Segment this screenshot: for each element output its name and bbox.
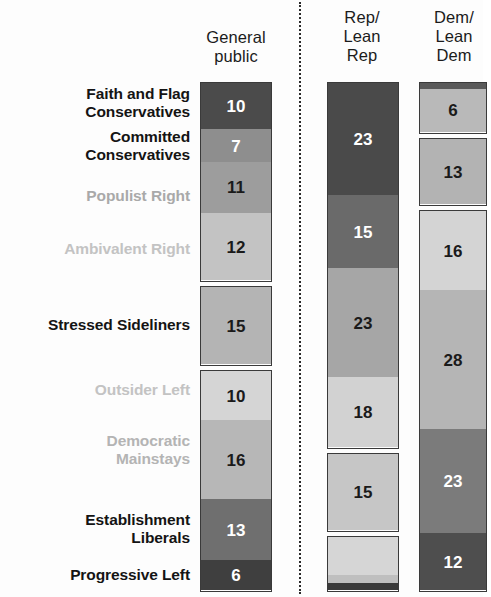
segment-value-label: 16 bbox=[420, 243, 486, 260]
segment-value-label: 13 bbox=[420, 164, 486, 181]
row-label: Committed Conservatives bbox=[85, 128, 190, 163]
row-label: Democratic Mainstays bbox=[107, 432, 190, 467]
stack-group-box: 1071112 bbox=[200, 82, 272, 282]
row-label: Faith and Flag Conservatives bbox=[85, 85, 190, 120]
stack-group-box: 6 bbox=[419, 82, 487, 134]
segment-value-label: 6 bbox=[420, 102, 486, 119]
segment-value-label: 10 bbox=[201, 388, 271, 405]
segment-value-label: 28 bbox=[420, 352, 486, 369]
stack-group-box: 1016136 bbox=[200, 370, 272, 592]
segment-value-label: 11 bbox=[201, 179, 271, 196]
segment-value-label: 23 bbox=[420, 473, 486, 490]
stack-segment bbox=[328, 583, 398, 590]
vertical-dotted-divider bbox=[299, 2, 301, 594]
segment-value-label: 15 bbox=[328, 484, 398, 501]
stack-column-rep-lean-rep: 2315231815 bbox=[327, 0, 399, 597]
stack-group-box: 15 bbox=[200, 286, 272, 366]
segment-value-label: 7 bbox=[201, 138, 271, 155]
stack-column-general-public: 1071112151016136 bbox=[200, 0, 272, 597]
segment-value-label: 6 bbox=[201, 567, 271, 584]
row-label: Populist Right bbox=[86, 187, 190, 205]
segment-value-label: 23 bbox=[328, 131, 398, 148]
segment-value-label: 13 bbox=[201, 522, 271, 539]
stack-segment bbox=[328, 537, 398, 575]
row-label: Outsider Left bbox=[95, 381, 190, 399]
segment-value-label: 18 bbox=[328, 404, 398, 421]
segment-value-label: 10 bbox=[201, 98, 271, 115]
row-label: Establishment Liberals bbox=[85, 511, 190, 546]
stack-group-box: 13 bbox=[419, 138, 487, 206]
stack-group-box: 15 bbox=[327, 453, 399, 532]
segment-value-label: 16 bbox=[201, 452, 271, 469]
segment-value-label: 15 bbox=[328, 224, 398, 241]
stack-column-dem-lean-dem: 61316282312 bbox=[419, 0, 487, 597]
segment-value-label: 12 bbox=[420, 554, 486, 571]
row-label: Stressed Sideliners bbox=[48, 316, 190, 334]
segment-value-label: 15 bbox=[201, 318, 271, 335]
stack-group-box: 23152318 bbox=[327, 82, 399, 449]
segment-value-label: 23 bbox=[328, 315, 398, 332]
row-label: Ambivalent Right bbox=[64, 240, 190, 258]
stack-segment bbox=[328, 575, 398, 584]
stack-group-box bbox=[327, 536, 399, 592]
stack-group-box: 16282312 bbox=[419, 210, 487, 592]
row-label: Progressive Left bbox=[70, 566, 190, 584]
segment-value-label: 12 bbox=[201, 239, 271, 256]
